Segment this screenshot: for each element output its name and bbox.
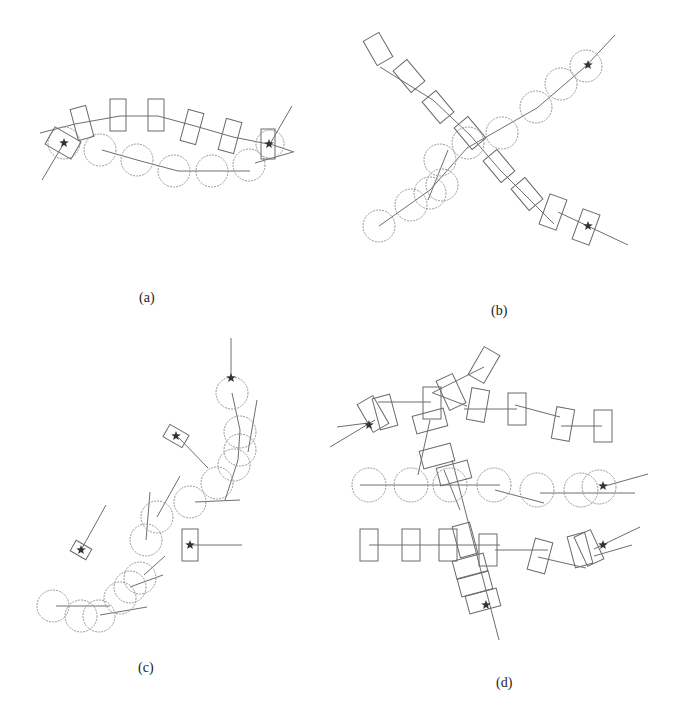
rect-agent [110, 99, 126, 131]
trajectory-line [179, 438, 208, 468]
circle-agent [520, 91, 552, 123]
panel-a [40, 99, 294, 187]
rect-agent [468, 347, 500, 384]
panel-label-b: (b) [491, 303, 507, 319]
trajectory-line [380, 67, 554, 224]
circle-agent [233, 149, 265, 181]
rect-agent [479, 534, 497, 566]
panel-c [37, 338, 257, 632]
goal-star-icon [76, 545, 86, 554]
panel-label-d: (d) [496, 675, 512, 691]
figure: (a) (b) (c) (d) [0, 0, 677, 716]
panel-d [330, 347, 648, 640]
trajectory-line [594, 527, 640, 549]
trajectory-line [495, 490, 544, 503]
goal-star-icon [583, 221, 593, 230]
rect-agent [527, 538, 553, 574]
rect-agent [452, 522, 478, 558]
circle-agent [84, 134, 116, 166]
rect-agent [466, 388, 489, 423]
rect-agent [457, 571, 493, 597]
panel-label-a: (a) [139, 290, 155, 306]
circle-agent [201, 467, 233, 499]
circle-agent [582, 470, 616, 504]
rect-agent [393, 59, 425, 92]
circle-agent [545, 68, 577, 100]
circle-agent [104, 582, 136, 614]
rect-agent [539, 194, 567, 230]
rect-agent [180, 109, 204, 144]
trajectory-line [270, 106, 292, 144]
trajectory-line [146, 492, 150, 540]
rect-agent [148, 99, 164, 131]
goal-star-icon [226, 373, 236, 382]
rect-agent [423, 387, 441, 419]
goal-star-icon [598, 540, 608, 549]
trajectory-line [130, 575, 163, 587]
goal-star-icon [59, 138, 69, 147]
circle-agent [83, 600, 115, 632]
circle-agent [65, 600, 97, 632]
trajectory-line [248, 400, 257, 452]
trajectory-line [558, 212, 628, 245]
circle-agent [124, 562, 156, 594]
trajectory-line [195, 500, 240, 502]
circle-agent [520, 473, 554, 507]
goal-star-icon [185, 540, 195, 549]
trajectory-line [444, 470, 460, 510]
circle-agent [426, 169, 458, 201]
rect-agent [551, 407, 574, 442]
panel-label-c: (c) [138, 660, 154, 676]
goal-star-icon [598, 481, 608, 490]
trajectory-line [81, 505, 106, 550]
panel-b [363, 32, 628, 245]
trajectory-line [418, 420, 430, 475]
rect-agent [511, 177, 543, 210]
circle-agent [414, 177, 446, 209]
rect-agent [465, 588, 501, 614]
rect-agent [372, 394, 398, 430]
circle-agent [486, 117, 518, 149]
circle-agent [395, 189, 427, 221]
rect-agent [483, 149, 515, 182]
rect-agent [454, 116, 486, 149]
trajectory-line [452, 460, 499, 640]
rect-agent [363, 32, 393, 65]
trajectory-line [337, 423, 368, 427]
trajectory-plot [0, 0, 677, 716]
circle-agent [564, 473, 598, 507]
rect-agent [422, 90, 454, 123]
trajectory-line [538, 557, 586, 568]
trajectory-line [515, 405, 560, 417]
